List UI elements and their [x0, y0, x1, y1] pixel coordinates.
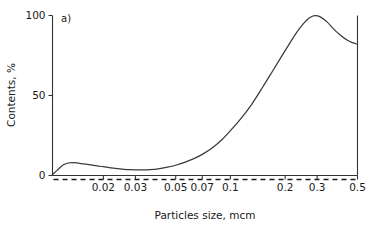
ticks-group [49, 16, 358, 180]
y-tick-label-1: 50 [32, 89, 45, 101]
chart-figure: 0.020.030.050.070.10.20.30.5050100 Conte… [0, 0, 385, 229]
x-tick-label-3: 0.07 [191, 181, 214, 193]
y-axis-title: Contents, % [5, 63, 17, 127]
reference-lines-group [54, 16, 358, 180]
chart-canvas: 0.020.030.050.070.10.20.30.5050100 Conte… [0, 0, 385, 229]
data-series-group [53, 16, 358, 175]
x-tick-label-1: 0.03 [124, 181, 147, 193]
x-axis-title: Particles size, mcm [155, 209, 256, 221]
x-tick-label-2: 0.05 [164, 181, 187, 193]
x-tick-label-7: 0.5 [349, 181, 366, 193]
x-tick-label-0: 0.02 [92, 181, 115, 193]
y-tick-label-0: 0 [39, 169, 46, 181]
x-tick-label-5: 0.2 [277, 181, 294, 193]
x-tick-label-4: 0.1 [222, 181, 239, 193]
data-curve-contents [53, 16, 358, 175]
panel-label: a) [61, 13, 71, 24]
x-tick-label-6: 0.3 [309, 181, 326, 193]
axes-group [53, 16, 358, 176]
y-tick-label-2: 100 [25, 9, 45, 21]
tick-labels-group: 0.020.030.050.070.10.20.30.5050100 [25, 9, 365, 192]
